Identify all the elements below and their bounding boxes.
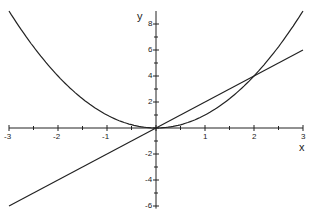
y-tick-label: 8 [148,20,152,28]
y-axis-label: y [137,10,143,22]
y-tick-label: 6 [148,46,152,54]
y-tick-label: -6 [145,202,152,210]
x-tick-label: -1 [102,133,109,141]
y-tick-label: 2 [148,98,152,106]
x-tick-label: 3 [301,133,305,141]
y-tick-label: -4 [145,176,152,184]
x-tick-label: -2 [53,133,60,141]
x-tick-label: 1 [203,133,207,141]
function-plot [0,0,311,219]
x-tick-label: 2 [252,133,256,141]
x-axis-label: x [299,141,305,153]
y-tick-label: 4 [148,72,152,80]
x-tick-label: -3 [4,133,11,141]
plot-area: -3-2-11238642-2-4-6xy [0,0,311,219]
y-tick-label: -2 [145,150,152,158]
